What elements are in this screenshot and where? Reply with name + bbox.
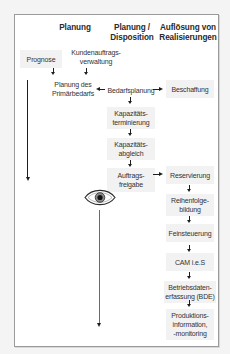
node-freigabe-line2: freigabe xyxy=(119,180,143,189)
node-cam-label: CAM i.e.S xyxy=(175,258,205,267)
node-freigabe-line1: Auftrags- xyxy=(117,171,144,180)
node-kapterm-line2: terminierung xyxy=(112,118,149,127)
monitoring-arrowhead xyxy=(97,323,101,327)
node-feinsteuerung: Feinsteuerung xyxy=(166,224,214,242)
node-kapterm-line1: Kapazitäts- xyxy=(114,109,147,118)
node-bedarfsplanung: Bedarfsplanung xyxy=(106,83,156,97)
header-planung-label: Planung xyxy=(59,23,91,32)
node-produktion-line2: information, xyxy=(173,320,208,329)
header-disposition-line1: Planung / xyxy=(104,23,160,33)
arrow-bedarf-kapterm xyxy=(128,97,133,106)
node-reihenfolgebildung: Reihenfolge- bildung xyxy=(166,194,214,216)
arrow-prognose-down xyxy=(51,68,56,77)
arrow-kapterm-kapabgl xyxy=(128,129,133,138)
arrow-kundenauftrag-down xyxy=(84,68,89,77)
node-produktion-line1: Produktions- xyxy=(171,311,209,320)
eye-icon xyxy=(84,189,116,206)
node-kundenauftrag-line1: Kundenauftrags- xyxy=(71,48,121,57)
arrow-bde-produktion xyxy=(187,300,192,309)
arrow-reserv-reihenfolge xyxy=(187,185,192,194)
node-bedarfsplanung-label: Bedarfsplanung xyxy=(108,86,155,95)
node-beschaffung-label: Beschaffung xyxy=(171,85,208,94)
node-kapabgl-line2: abgleich xyxy=(119,149,144,158)
node-prognose-label: Prognose xyxy=(27,55,56,64)
arrow-right-head-reservierung xyxy=(159,172,163,176)
monitoring-line xyxy=(99,210,101,324)
node-primaerbedarf-line1: Planung des xyxy=(54,80,91,89)
planung-timeline-line xyxy=(27,80,28,178)
node-bde-line1: Betriebsdaten- xyxy=(168,283,211,292)
arrow-right-head-beschaffung xyxy=(159,87,163,91)
node-kundenauftrag-line2: verwaltung xyxy=(80,57,112,66)
node-feinsteuerung-label: Feinsteuerung xyxy=(169,229,212,238)
connector-bedarf-primaer xyxy=(99,89,105,90)
header-realisierung-line1: Auflösung von xyxy=(158,23,218,33)
header-planung: Planung xyxy=(52,23,98,33)
planung-timeline-arrowhead xyxy=(26,177,30,181)
node-planung-primaerbedarf: Planung des Primärbedarfs xyxy=(47,78,99,100)
node-kundenauftragsverwaltung: Kundenauftrags- verwaltung xyxy=(70,46,122,68)
node-kapabgl-line1: Kapazitäts- xyxy=(114,140,147,149)
node-reservierung-label: Reservierung xyxy=(170,171,210,180)
node-produktionsinformation: Produktions- information, -monitoring xyxy=(166,309,214,340)
header-realisierung-line2: Realisierungen xyxy=(158,33,218,43)
node-reihenfolge-line2: bildung xyxy=(179,205,201,214)
node-kapazitaetsabgleich: Kapazitäts- abgleich xyxy=(107,138,155,160)
header-realisierung: Auflösung von Realisierungen xyxy=(158,23,218,43)
node-prognose: Prognose xyxy=(20,50,62,68)
arrow-cam-bde xyxy=(187,272,192,281)
node-reihenfolge-line1: Reihenfolge- xyxy=(171,196,209,205)
header-disposition-line2: Disposition xyxy=(104,33,160,43)
node-beschaffung: Beschaffung xyxy=(166,80,214,98)
node-primaerbedarf-line2: Primärbedarfs xyxy=(52,89,94,98)
node-produktion-line3: -monitoring xyxy=(173,329,206,338)
header-disposition: Planung / Disposition xyxy=(104,23,160,43)
node-reservierung: Reservierung xyxy=(166,166,214,184)
node-cam: CAM i.e.S xyxy=(166,253,214,271)
node-kapazitaetsterminierung: Kapazitäts- terminierung xyxy=(107,107,155,129)
